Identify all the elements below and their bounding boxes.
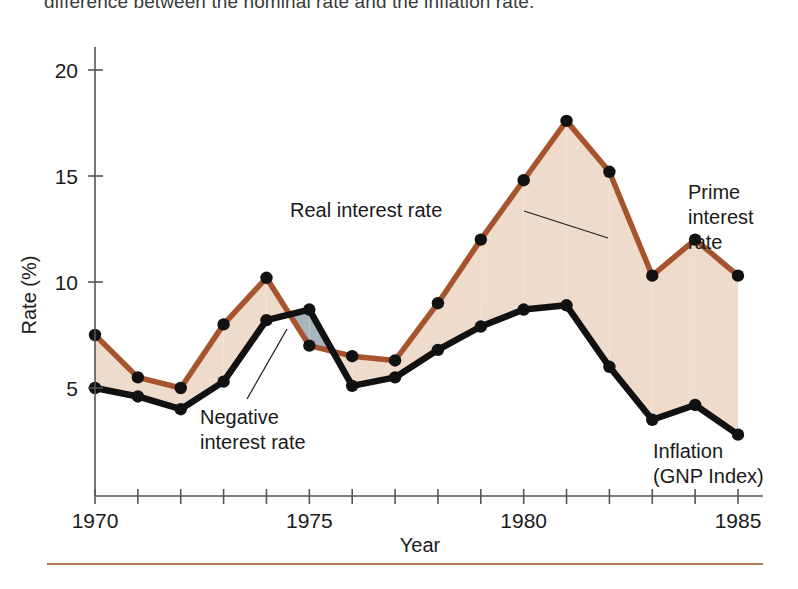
prime-label-line3: rate bbox=[688, 231, 722, 253]
inflation-data-point bbox=[346, 380, 358, 392]
negative-interest-rate-label-line1: Negative bbox=[200, 406, 279, 428]
annotation-inflation: Inflation (GNP Index) bbox=[653, 440, 764, 487]
y-tick-label: 20 bbox=[55, 59, 78, 82]
y-tick-label: 15 bbox=[55, 165, 78, 188]
prime-data-point bbox=[603, 166, 615, 178]
y-tick-label: 10 bbox=[55, 271, 78, 294]
prime-data-point bbox=[475, 233, 487, 245]
real-interest-rate-label: Real interest rate bbox=[290, 199, 442, 221]
inflation-data-point bbox=[560, 299, 572, 311]
inflation-data-point bbox=[303, 303, 315, 315]
chart-svg: 2015105 1970197519801985 Rate (%) Year R… bbox=[0, 0, 798, 589]
fill-positive-segment bbox=[652, 240, 695, 420]
fill-positive-segment bbox=[567, 121, 610, 367]
inflation-data-point bbox=[646, 414, 658, 426]
inflation-data-point bbox=[389, 371, 401, 383]
inflation-data-point bbox=[432, 344, 444, 356]
footer-rule bbox=[47, 563, 763, 565]
inflation-data-point bbox=[175, 403, 187, 415]
prime-label-line1: Prime bbox=[688, 181, 740, 203]
chart-fill-areas bbox=[95, 121, 738, 435]
inflation-data-point bbox=[603, 361, 615, 373]
fill-positive-segment bbox=[481, 180, 524, 326]
prime-label-line2: interest bbox=[688, 206, 754, 228]
inflation-data-point bbox=[217, 375, 229, 387]
annotation-prime-interest-rate: Prime interest rate bbox=[688, 181, 754, 253]
inflation-data-point bbox=[689, 399, 701, 411]
chart-figure: 2015105 1970197519801985 Rate (%) Year R… bbox=[0, 0, 798, 589]
inflation-label-line2: (GNP Index) bbox=[653, 465, 764, 487]
inflation-data-point bbox=[132, 390, 144, 402]
prime-data-point bbox=[346, 350, 358, 362]
inflation-data-point bbox=[517, 303, 529, 315]
prime-data-point bbox=[303, 339, 315, 351]
prime-data-point bbox=[175, 382, 187, 394]
y-axis-title: Rate (%) bbox=[18, 256, 40, 335]
prime-data-point bbox=[132, 371, 144, 383]
x-tick-label: 1970 bbox=[72, 509, 119, 532]
fill-positive-segment bbox=[609, 172, 652, 420]
prime-data-point bbox=[217, 318, 229, 330]
inflation-data-point bbox=[475, 320, 487, 332]
prime-data-point bbox=[260, 272, 272, 284]
inflation-data-point bbox=[260, 314, 272, 326]
inflation-label-line1: Inflation bbox=[653, 440, 723, 462]
prime-data-point bbox=[432, 297, 444, 309]
x-tick-label: 1975 bbox=[286, 509, 333, 532]
negative-interest-rate-label-line2: interest rate bbox=[200, 431, 306, 453]
prime-data-point bbox=[389, 354, 401, 366]
prime-data-point bbox=[732, 269, 744, 281]
x-tick-label: 1980 bbox=[500, 509, 547, 532]
x-axis-title: Year bbox=[400, 534, 441, 556]
prime-data-point bbox=[560, 115, 572, 127]
prime-data-point bbox=[646, 269, 658, 281]
inflation-data-point bbox=[732, 428, 744, 440]
y-tick-label: 5 bbox=[66, 377, 78, 400]
prime-data-point bbox=[517, 174, 529, 186]
x-tick-label: 1985 bbox=[715, 509, 762, 532]
